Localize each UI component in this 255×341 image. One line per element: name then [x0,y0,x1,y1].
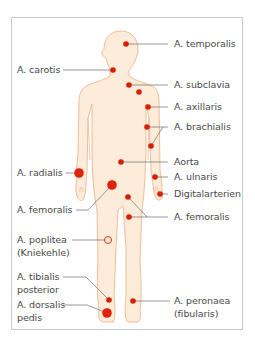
body-silhouette [76,31,163,322]
label-radialis: A. radialis [17,167,63,180]
label-femoralis-left: A. femoralis [17,204,72,217]
label-dorsalis-sub: pedis [17,312,42,325]
label-aorta: Aorta [174,156,199,169]
label-poplitea-sub: (Kniekehle) [17,247,70,260]
label-digitalarterien: Digitalarterien [174,188,241,201]
label-subclavia: A. subclavia [174,79,230,92]
label-temporalis: A. temporalis [174,38,236,51]
label-peronaea-sub: (fibularis) [174,308,218,321]
label-peronaea: A. peronaea [174,295,230,308]
label-carotis: A. carotis [17,64,60,77]
label-axillaris: A. axillaris [174,101,222,114]
label-tibialis: A. tibialis [17,271,59,284]
label-ulnaris: A. ulnaris [174,171,217,184]
label-brachialis: A. brachialis [174,121,231,134]
label-dorsalis: A. dorsalis [17,299,65,312]
label-tibialis-sub: posterior [17,284,59,297]
label-poplitea: A. poplitea [17,234,67,247]
label-femoralis-right: A. femoralis [174,211,229,224]
